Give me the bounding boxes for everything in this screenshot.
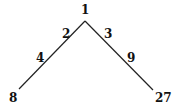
right-endpoint-label: 27: [155, 92, 172, 104]
left-endpoint-label: 8: [9, 92, 17, 104]
right-edge-label-lower: 9: [127, 52, 135, 64]
left-edge-label-upper: 2: [62, 28, 70, 40]
left-branch-line: [19, 21, 85, 89]
root-label: 1: [81, 4, 89, 16]
left-edge-label-lower: 4: [36, 52, 44, 64]
right-edge-label-upper: 3: [104, 28, 112, 40]
right-branch-line: [85, 21, 153, 90]
